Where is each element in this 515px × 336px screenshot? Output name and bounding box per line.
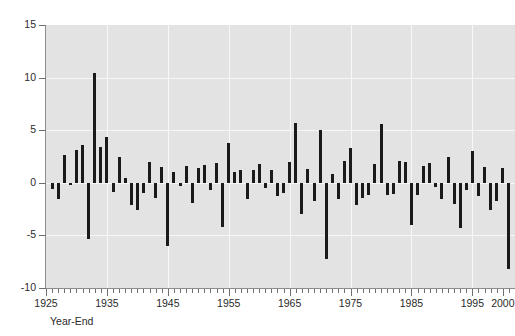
x-axis-tick-minor — [113, 289, 114, 293]
horizontal-gridline — [46, 130, 515, 131]
x-axis-tick-minor — [89, 289, 90, 293]
x-axis-tick-minor — [454, 289, 455, 293]
bar — [386, 183, 389, 196]
bar — [361, 183, 364, 198]
x-axis-tick-minor — [125, 289, 126, 293]
bar — [99, 147, 102, 183]
x-axis-tick-label: 1955 — [217, 297, 240, 309]
bar — [154, 183, 157, 198]
bar — [453, 183, 456, 204]
x-axis-tick-major — [46, 289, 47, 296]
y-axis-labels: 151050-5-10 — [0, 0, 36, 336]
bar — [118, 157, 121, 183]
x-axis-tick-label: 1995 — [461, 297, 484, 309]
x-axis-tick-minor — [436, 289, 437, 293]
bar — [288, 162, 291, 183]
x-axis-tick-major — [107, 289, 108, 296]
bar — [325, 183, 328, 259]
x-axis-tick-minor — [247, 289, 248, 293]
y-axis-tick — [39, 25, 46, 26]
x-axis-tick-minor — [491, 289, 492, 293]
bar — [392, 183, 395, 195]
y-axis-tick — [39, 288, 46, 289]
x-axis-tick-label: 1985 — [400, 297, 423, 309]
x-axis-tick-minor — [265, 289, 266, 293]
x-axis-tick-minor — [58, 289, 59, 293]
bar — [507, 183, 510, 269]
y-axis-tick — [39, 183, 46, 184]
bar — [471, 151, 474, 183]
bar — [112, 183, 115, 192]
x-axis-tick-minor — [192, 289, 193, 293]
bar — [416, 183, 419, 196]
x-axis-tick-minor — [369, 289, 370, 293]
plot-area — [46, 25, 515, 288]
x-axis-tick-minor — [223, 289, 224, 293]
bar — [87, 183, 90, 239]
bar — [258, 164, 261, 183]
bar — [270, 170, 273, 183]
y-axis-tick-label: -10 — [21, 282, 36, 292]
bar — [367, 183, 370, 196]
x-axis-tick-label: 1975 — [339, 297, 362, 309]
x-axis-tick-minor — [375, 289, 376, 293]
y-axis-tick-label: -5 — [27, 229, 36, 239]
bar — [105, 137, 108, 183]
vertical-gridline — [290, 25, 291, 288]
bar — [434, 183, 437, 187]
x-axis-tick-label: 1965 — [278, 297, 301, 309]
x-axis-tick-label: 1945 — [156, 297, 179, 309]
bar — [319, 130, 322, 183]
x-axis-tick-minor — [64, 289, 65, 293]
bar — [191, 183, 194, 203]
bar — [428, 163, 431, 183]
x-axis-title: Year-End — [50, 315, 93, 327]
bar — [81, 145, 84, 183]
bar — [142, 183, 145, 194]
vertical-gridline — [168, 25, 169, 288]
bar — [160, 167, 163, 183]
x-axis-tick-minor — [198, 289, 199, 293]
bar — [331, 174, 334, 182]
bar — [410, 183, 413, 225]
bar — [355, 183, 358, 205]
x-axis-tick-minor — [387, 289, 388, 293]
x-axis-tick-minor — [70, 289, 71, 293]
x-axis-tick-minor — [442, 289, 443, 293]
y-axis-tick-label: 15 — [24, 19, 36, 29]
bar — [63, 155, 66, 182]
x-axis-tick-label: 1925 — [34, 297, 57, 309]
bar — [300, 183, 303, 215]
x-axis-tick-minor — [277, 289, 278, 293]
x-axis-tick-minor — [344, 289, 345, 293]
x-axis-tick-minor — [284, 289, 285, 293]
x-axis-tick-minor — [162, 289, 163, 293]
x-axis-tick-minor — [204, 289, 205, 293]
bar — [69, 183, 72, 185]
bar — [282, 183, 285, 194]
bar — [373, 164, 376, 183]
x-axis-tick-minor — [101, 289, 102, 293]
bar — [227, 143, 230, 183]
y-axis-tick-label: 5 — [30, 124, 36, 134]
bar — [422, 166, 425, 183]
bar — [477, 183, 480, 197]
x-axis-tick-minor — [308, 289, 309, 293]
x-axis-tick-minor — [314, 289, 315, 293]
y-axis-tick — [39, 130, 46, 131]
bar — [501, 168, 504, 183]
bar — [130, 183, 133, 205]
x-axis-tick-minor — [271, 289, 272, 293]
bar — [148, 162, 151, 183]
bar — [337, 183, 340, 199]
x-axis-tick-minor — [180, 289, 181, 293]
x-axis-tick-minor — [485, 289, 486, 293]
bar — [209, 183, 212, 190]
y-axis-tick-label: 10 — [24, 72, 36, 82]
bar — [306, 169, 309, 183]
x-axis-tick-minor — [241, 289, 242, 293]
x-axis-tick-major — [290, 289, 291, 296]
x-axis-tick-minor — [430, 289, 431, 293]
x-axis-tick-minor — [137, 289, 138, 293]
x-axis-tick-minor — [424, 289, 425, 293]
